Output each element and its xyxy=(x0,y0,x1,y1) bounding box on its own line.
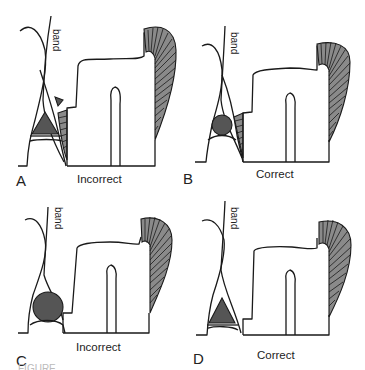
panel-d: band D Correct xyxy=(180,185,362,369)
panel-d-drawing xyxy=(180,185,362,369)
panel-b-drawing xyxy=(180,0,362,184)
wedge-circle-icon xyxy=(212,115,232,135)
pulp-canal xyxy=(111,87,121,166)
gingiva-outline-left xyxy=(18,27,46,166)
verdict-label: Incorrect xyxy=(76,341,121,353)
pulp-canal xyxy=(286,270,296,335)
panel-a-drawing xyxy=(0,0,182,184)
band-label: band xyxy=(229,32,240,54)
papilla-curve xyxy=(208,327,238,330)
verdict-label: Incorrect xyxy=(77,173,122,185)
gingiva-outline-left xyxy=(195,44,222,162)
pulp-canal xyxy=(107,265,117,333)
figure-caption: FIGURE ... xyxy=(18,364,348,370)
tooth-base xyxy=(63,313,149,333)
pulp-canal xyxy=(286,93,296,162)
verdict-label: Correct xyxy=(257,349,295,361)
band-label: band xyxy=(53,207,64,229)
hatched-gingiva xyxy=(319,221,351,317)
tooth-outline xyxy=(63,237,141,333)
panel-b: band B Correct xyxy=(180,0,362,184)
papilla-curve xyxy=(30,140,62,142)
hatched-gingiva xyxy=(141,218,172,313)
tooth-outline xyxy=(243,238,317,335)
wedge-circle-icon xyxy=(33,292,63,322)
panel-c: band C Incorrect xyxy=(0,185,182,369)
band-label: band xyxy=(229,207,240,229)
panel-a: band A Incorrect xyxy=(0,0,182,184)
tooth-outline xyxy=(243,44,327,162)
band-label: band xyxy=(51,29,62,51)
arrowhead-icon xyxy=(55,97,63,106)
verdict-label: Correct xyxy=(256,168,294,180)
wedge-triangle-icon xyxy=(209,298,235,323)
